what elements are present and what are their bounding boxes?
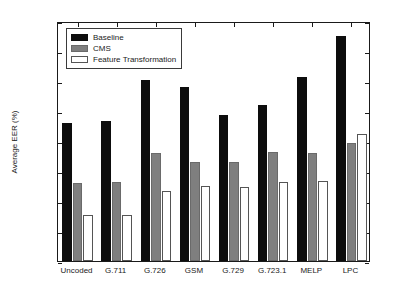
bar (347, 143, 357, 262)
legend-label: Feature Transformation (93, 55, 176, 64)
chart-legend: BaselineCMSFeature Transformation (66, 28, 182, 69)
y-axis-label: Average EER (%) (10, 111, 19, 174)
bar (73, 183, 83, 261)
y-tick-mark (58, 263, 62, 264)
bar (308, 153, 318, 261)
legend-swatch-icon (71, 34, 88, 41)
x-tick-label-lpc: LPC (343, 266, 359, 275)
bar (258, 105, 268, 261)
bar (318, 181, 328, 261)
bar (336, 36, 346, 261)
bar (62, 123, 72, 261)
bar (219, 115, 229, 261)
x-tick-label-g-711: G.711 (105, 266, 126, 275)
bar-group (219, 23, 250, 261)
bar (112, 182, 122, 262)
bar (122, 215, 132, 261)
bar-chart-figure: Average EER (%) 0246810121416 UncodedG.7… (0, 0, 400, 293)
bar (268, 152, 278, 262)
legend-swatch-icon (71, 56, 88, 63)
x-tick-label-melp: MELP (300, 266, 322, 275)
x-tick-label-g-723-1: G.723.1 (258, 266, 286, 275)
legend-item-feature-transformation: Feature Transformation (71, 54, 176, 65)
bar-group (297, 23, 328, 261)
bar (190, 162, 200, 261)
x-tick-label-gsm: GSM (185, 266, 203, 275)
bar (240, 187, 250, 261)
y-tick-mark (365, 263, 369, 264)
bar (297, 77, 307, 262)
bar-group (336, 23, 367, 261)
bar (151, 153, 161, 261)
bar-group (180, 23, 211, 261)
bar (279, 182, 289, 262)
x-tick-label-uncoded: Uncoded (61, 266, 93, 275)
legend-label: Baseline (93, 33, 124, 42)
legend-label: CMS (93, 44, 111, 53)
bar (180, 87, 190, 261)
bar (201, 186, 211, 261)
bar (141, 80, 151, 262)
legend-item-cms: CMS (71, 43, 176, 54)
bar (229, 162, 239, 261)
x-tick-label-g-729: G.729 (222, 266, 244, 275)
x-tick-label-g-726: G.726 (144, 266, 166, 275)
bar (357, 134, 367, 262)
legend-item-baseline: Baseline (71, 32, 176, 43)
bar (101, 121, 111, 261)
bar (162, 191, 172, 261)
legend-swatch-icon (71, 45, 88, 52)
bar (83, 215, 93, 261)
bar-group (258, 23, 289, 261)
